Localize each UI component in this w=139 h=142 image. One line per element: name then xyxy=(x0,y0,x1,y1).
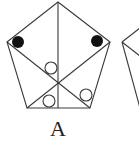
filled-dot-left xyxy=(12,36,24,48)
open-circle-bottom-left xyxy=(43,95,55,107)
pentagon-a xyxy=(7,2,110,108)
figure-label: A xyxy=(46,117,70,141)
diagonal-right-to-bottom-left xyxy=(27,42,110,108)
open-circle-bottom-right xyxy=(80,89,92,101)
partial-pentagon-b xyxy=(122,24,139,108)
open-circles xyxy=(43,62,92,107)
filled-dot-right xyxy=(91,35,103,47)
open-circle-upper xyxy=(45,62,57,74)
